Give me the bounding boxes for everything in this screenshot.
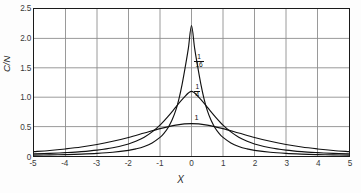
x-axis-label: X — [0, 174, 361, 185]
x-tick-label: 4 — [316, 159, 320, 168]
fraction-denominator: 4 — [194, 91, 200, 99]
plot-area — [33, 8, 350, 157]
y-tick-label: 0.5 — [20, 123, 31, 132]
x-tick-label: -4 — [61, 159, 68, 168]
curve-label-1: 1 — [194, 114, 198, 121]
x-tick-label: 3 — [284, 159, 288, 168]
x-tick-label: -3 — [93, 159, 100, 168]
fraction-denominator: 16 — [194, 61, 203, 69]
x-tick-label: 5 — [348, 159, 352, 168]
figure-canvas: 00.51.01.52.02.5 C/N -5-4-3-2-1012345 X … — [0, 0, 361, 193]
y-tick-label: 1.0 — [20, 93, 31, 102]
x-tick-label: -5 — [30, 159, 37, 168]
y-tick-label: 2.0 — [20, 33, 31, 42]
x-tick-label: -2 — [125, 159, 132, 168]
curve-label-1-over-4: 14 — [194, 84, 200, 98]
x-tick-label: 1 — [221, 159, 225, 168]
x-tick-label: -1 — [156, 159, 163, 168]
curve-label-1-over-16: 116 — [194, 54, 203, 68]
fraction-numerator: 1 — [194, 84, 200, 91]
x-tick-label: 2 — [253, 159, 257, 168]
x-tick-label: 0 — [189, 159, 193, 168]
y-axis-ticks: 00.51.01.52.02.5 — [0, 0, 33, 193]
y-tick-label: 1.5 — [20, 63, 31, 72]
fraction-numerator: 1 — [194, 54, 203, 61]
y-tick-label: 2.5 — [20, 4, 31, 13]
y-axis-label: C/N — [1, 56, 12, 72]
curve-layer — [34, 9, 349, 156]
